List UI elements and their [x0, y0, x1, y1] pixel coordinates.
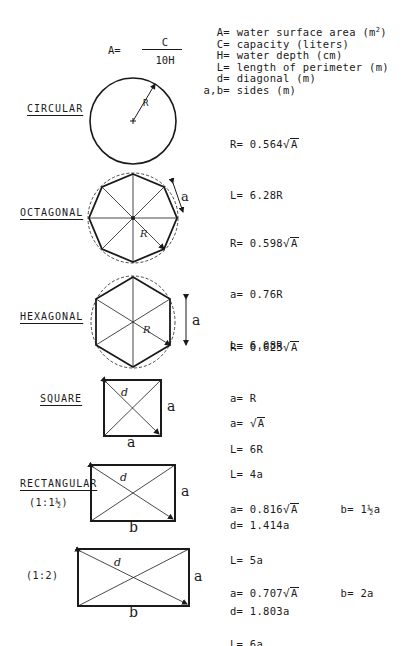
hexagon-radius-label: R	[143, 324, 151, 336]
label-circular: CIRCULAR	[27, 103, 83, 114]
rect2-diagonal-label: d	[114, 557, 121, 569]
rectangle-1-1.5-shape	[91, 465, 175, 521]
sqrt-icon: √	[250, 417, 257, 430]
sqrt-icon: √	[283, 341, 290, 354]
formula-line: R= 0.598√A	[230, 235, 299, 252]
rect1-side-bottom-label: b	[129, 521, 138, 533]
rect1-side-right-label: a	[181, 485, 190, 497]
formula-line: a= 0.76R	[230, 286, 299, 303]
square-diagonal-label: d	[121, 387, 128, 399]
formula-line: R= 0.623√A	[230, 339, 299, 356]
rect2-side-right-label: a	[194, 570, 203, 582]
formula-line: a= 0.707√Ab= 2a	[230, 585, 374, 602]
circle-shape	[90, 78, 176, 164]
ratio-rectangular-2: (1:2)	[26, 570, 59, 581]
circle-radius-label: R	[143, 97, 149, 109]
octagon-side-label: a	[181, 191, 189, 203]
sqrt-icon: √	[283, 138, 290, 151]
rectangle-1-2-shape	[78, 549, 189, 606]
hexagon-shape	[91, 276, 186, 368]
formula-line: a= √A	[230, 415, 290, 432]
sqrt-icon: √	[283, 587, 290, 600]
formula-line: L= 6a	[230, 636, 374, 646]
sqrt-icon: √	[283, 503, 290, 516]
rect2-side-bottom-label: b	[129, 606, 138, 618]
square-side-right-label: a	[167, 400, 176, 412]
label-hexagonal: HEXAGONAL	[20, 311, 83, 322]
formula-line: a= 0.816√Ab= 1½a	[230, 501, 380, 518]
square-side-bottom-label: a	[127, 436, 136, 448]
octagon-shape	[88, 173, 183, 263]
formulas-rectangular-2: a= 0.707√Ab= 2a L= 6a d= 2.236a	[230, 551, 374, 646]
sqrt-icon: √	[283, 237, 290, 250]
octagon-radius-label: R	[140, 228, 148, 240]
ratio-rectangular-1: (1:1½)	[29, 497, 68, 508]
label-square: SQUARE	[40, 393, 82, 404]
rect1-diagonal-label: d	[120, 472, 127, 484]
hexagon-side-label: a	[192, 314, 201, 326]
label-octagonal: OCTAGONAL	[20, 207, 83, 218]
formula-line: R= 0.564√A	[230, 136, 299, 153]
label-rectangular: RECTANGULAR	[20, 478, 97, 489]
square-shape	[104, 380, 161, 436]
